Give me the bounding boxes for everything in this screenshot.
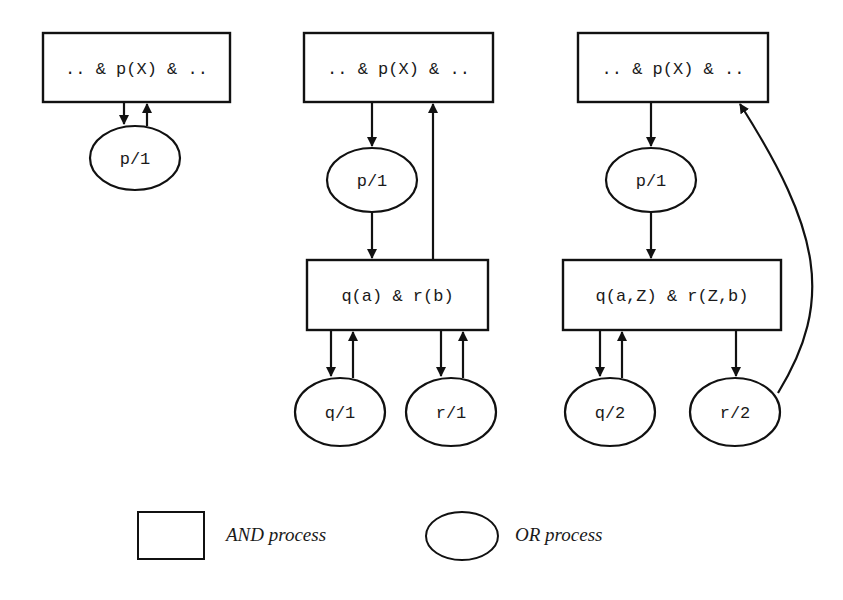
panel-2: .. & p(X) & .. p/1 q(a) & r(b) q/1 r/1	[295, 33, 496, 446]
legend-and-label: AND process	[224, 524, 326, 545]
panel-1: .. & p(X) & .. p/1	[43, 33, 230, 190]
or-process-label: p/1	[357, 172, 388, 191]
and-process-label: .. & p(X) & ..	[65, 60, 208, 79]
legend-or-swatch	[426, 512, 498, 560]
and-process-label: q(a) & r(b)	[341, 287, 453, 306]
or-process-label: q/2	[595, 404, 626, 423]
or-process-label: p/1	[120, 150, 151, 169]
direct-return-arrow	[740, 104, 812, 393]
legend-and-swatch	[138, 512, 204, 559]
and-process-label: .. & p(X) & ..	[327, 60, 470, 79]
or-process-label: p/1	[636, 172, 667, 191]
legend-or-label: OR process	[515, 524, 602, 545]
or-process-label: r/1	[436, 404, 467, 423]
panel-3: .. & p(X) & .. p/1 q(a,Z) & r(Z,b) q/2 r…	[563, 33, 812, 446]
and-process-label: q(a,Z) & r(Z,b)	[595, 287, 748, 306]
and-or-process-diagram: .. & p(X) & .. p/1 .. & p(X) & .. p/1 q(…	[0, 0, 843, 600]
or-process-label: r/2	[720, 404, 751, 423]
and-process-label: .. & p(X) & ..	[602, 60, 745, 79]
legend: AND process OR process	[138, 512, 602, 560]
or-process-label: q/1	[325, 404, 356, 423]
